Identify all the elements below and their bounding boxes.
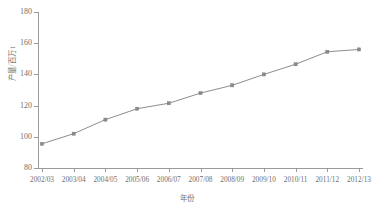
x-tick-label: 2006/07 — [157, 175, 181, 184]
data-point-marker — [231, 84, 234, 87]
data-point-marker — [72, 132, 75, 135]
series-line — [42, 49, 359, 143]
data-point-marker — [262, 73, 265, 76]
y-tick-label: 100 — [20, 132, 32, 141]
y-tick-label: 120 — [20, 101, 32, 110]
x-tick-label: 2011/12 — [315, 175, 339, 184]
data-point-marker — [357, 48, 360, 51]
series-production — [38, 12, 363, 169]
x-tick-label: 2009/10 — [252, 175, 276, 184]
data-point-marker — [40, 142, 43, 145]
y-tick-label: 140 — [20, 69, 32, 78]
data-point-marker — [104, 118, 107, 121]
series-markers — [40, 48, 360, 146]
data-point-marker — [136, 107, 139, 110]
data-point-marker — [199, 92, 202, 95]
data-point-marker — [294, 63, 297, 66]
line-chart: 产量/百万 t 80100120140160180 2002/032003/04… — [0, 0, 373, 211]
x-tick-label: 2007/08 — [189, 175, 213, 184]
y-axis-title: 产量/百万 t — [6, 21, 17, 107]
plot-area: 80100120140160180 2002/032003/042004/052… — [38, 12, 363, 169]
data-point-marker — [326, 50, 329, 53]
x-tick-label: 2010/11 — [284, 175, 308, 184]
x-tick-label: 2002/03 — [30, 175, 54, 184]
x-tick-label: 2012/13 — [347, 175, 371, 184]
data-point-marker — [167, 102, 170, 105]
x-tick-label: 2004/05 — [93, 175, 117, 184]
y-tick-label: 160 — [20, 38, 32, 47]
x-tick-label: 2003/04 — [62, 175, 86, 184]
y-tick-label: 180 — [20, 7, 32, 16]
x-axis-title: 年份 — [0, 192, 373, 203]
x-tick-label: 2005/06 — [125, 175, 149, 184]
y-tick-label: 80 — [24, 163, 32, 172]
x-tick-label: 2008/09 — [220, 175, 244, 184]
